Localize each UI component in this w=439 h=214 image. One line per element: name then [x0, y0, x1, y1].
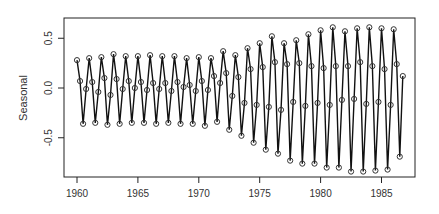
- y-tick-label: -0.5: [43, 129, 54, 147]
- y-axis-label: Seasonal: [17, 75, 29, 121]
- x-tick-label: 1975: [249, 188, 272, 199]
- y-tick-label: 0.0: [43, 81, 54, 95]
- x-tick-label: 1980: [309, 188, 332, 199]
- series-line: [77, 27, 403, 171]
- x-tick-label: 1970: [188, 188, 211, 199]
- y-axis: -0.50.00.5: [43, 31, 64, 147]
- seasonal-chart: -0.50.00.5 196019651970197519801985 Seas…: [0, 0, 439, 214]
- y-tick-label: 0.5: [43, 31, 54, 45]
- x-tick-label: 1960: [66, 188, 89, 199]
- x-axis: 196019651970197519801985: [66, 177, 393, 199]
- series-seasonal: [74, 25, 405, 174]
- x-tick-label: 1965: [127, 188, 150, 199]
- x-tick-label: 1985: [370, 188, 393, 199]
